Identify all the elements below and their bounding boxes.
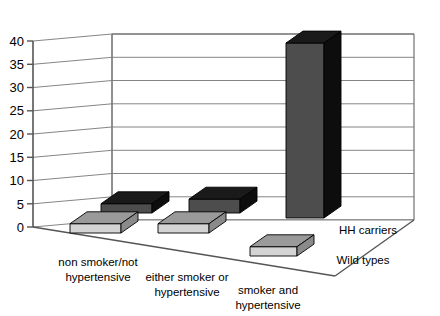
x-label-line-1: smoker and — [238, 284, 298, 296]
y-tick-label-25: 25 — [10, 103, 24, 118]
bar-front-face — [189, 199, 240, 213]
bar-front-face — [70, 224, 121, 233]
y-tick-label-0: 0 — [17, 220, 24, 235]
y-axis-ticks — [27, 41, 33, 227]
x-axis-label-non-smoker-not-hypertensive: non smoker/not hypertensive — [58, 256, 138, 283]
bar-side-face — [324, 31, 341, 218]
y-tick-label-35: 35 — [10, 57, 24, 72]
bar-front-face — [250, 247, 297, 256]
bar-chart-3d: 40 35 30 25 20 15 10 5 0 — [0, 0, 440, 316]
chart-container: 40 35 30 25 20 15 10 5 0 — [0, 0, 440, 316]
y-tick-label-20: 20 — [10, 127, 24, 142]
x-label-line-2: hypertensive — [235, 299, 300, 311]
y-tick-label-30: 30 — [10, 80, 24, 95]
series-label-hh-carriers: HH carriers — [339, 224, 397, 236]
y-tick-label-10: 10 — [10, 173, 24, 188]
x-axis-label-either-smoker-or-hypertensive: either smoker or hypertensive — [145, 271, 228, 298]
x-label-line-2: hypertensive — [65, 271, 130, 283]
bar-front-face — [286, 43, 324, 218]
y-tick-label-5: 5 — [17, 197, 24, 212]
series-label-wild-types: Wild types — [336, 254, 389, 266]
x-axis-label-smoker-and-hypertensive: smoker and hypertensive — [235, 284, 300, 311]
x-label-line-1: either smoker or — [145, 271, 228, 283]
x-label-line-2: hypertensive — [154, 286, 219, 298]
y-tick-label-15: 15 — [10, 150, 24, 165]
y-tick-label-40: 40 — [10, 34, 24, 49]
bar-hh-carriers-smoker-and-hypertensive[interactable] — [286, 31, 341, 218]
x-label-line-1: non smoker/not — [58, 256, 138, 268]
chart-walls — [33, 34, 414, 276]
y-axis: 40 35 30 25 20 15 10 5 0 — [10, 34, 33, 235]
bar-front-face — [158, 224, 209, 233]
